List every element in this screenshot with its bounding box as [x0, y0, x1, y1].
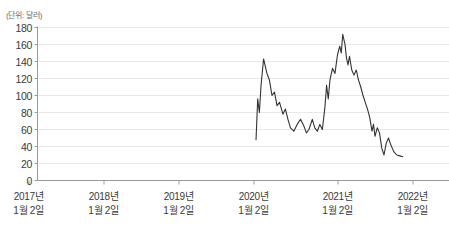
stock-line-chart: (단위: 달러) 020406080100120140160180 2017년1… — [0, 0, 449, 233]
y-tick-label: 120 — [2, 73, 32, 85]
y-tick-label: 160 — [2, 39, 32, 51]
x-tick-label: 2017년1월 2일 — [0, 190, 64, 218]
y-tick-label: 20 — [2, 158, 32, 170]
x-tick-label-date: 1월 2일 — [0, 204, 64, 218]
y-tick-label: 140 — [2, 56, 32, 68]
y-tick-label: 100 — [2, 90, 32, 102]
x-tick-label-year: 2020년 — [219, 190, 289, 204]
x-tick-label-date: 1월 2일 — [69, 204, 139, 218]
x-tick-label: 2021년1월 2일 — [303, 190, 373, 218]
x-tick-label: 2022년1월 2일 — [378, 190, 448, 218]
x-tick-label-year: 2019년 — [144, 190, 214, 204]
x-tick-label-year: 2018년 — [69, 190, 139, 204]
x-tick-label: 2018년1월 2일 — [69, 190, 139, 218]
y-tick-label: 0 — [2, 175, 32, 187]
x-tick-label-year: 2021년 — [303, 190, 373, 204]
x-tick-label-date: 1월 2일 — [144, 204, 214, 218]
x-tick-label-date: 1월 2일 — [219, 204, 289, 218]
x-tick-label: 2020년1월 2일 — [219, 190, 289, 218]
x-tick-label-year: 2022년 — [378, 190, 448, 204]
x-tick-label: 2019년1월 2일 — [144, 190, 214, 218]
y-tick-label: 40 — [2, 141, 32, 153]
x-tick-label-date: 1월 2일 — [378, 204, 448, 218]
y-tick-label: 60 — [2, 124, 32, 136]
y-tick-label: 180 — [2, 22, 32, 34]
x-tick-label-year: 2017년 — [0, 190, 64, 204]
x-tick-label-date: 1월 2일 — [303, 204, 373, 218]
y-tick-label: 80 — [2, 107, 32, 119]
